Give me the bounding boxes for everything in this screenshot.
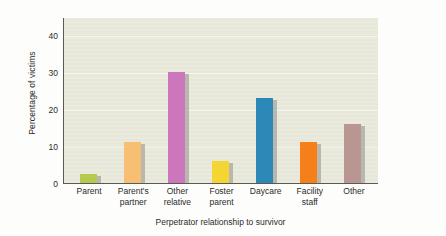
x-axis-tick-labels: ParentParent'spartnerOtherrelativeFoster… — [63, 186, 378, 207]
bar-slot — [244, 18, 288, 183]
x-tick-line-1: Parent's — [118, 186, 149, 196]
bar-slot — [68, 18, 112, 183]
bar-body — [80, 174, 97, 183]
bar-other[interactable] — [344, 124, 365, 183]
x-tick-line-1: Daycare — [250, 186, 282, 196]
x-tick-line-2: partner — [111, 197, 155, 208]
y-axis-tick-label: 0 — [32, 179, 58, 189]
x-axis-tick-label: Daycare — [244, 186, 288, 207]
bar-body — [344, 124, 361, 183]
bar-parent-s-partner[interactable] — [124, 142, 145, 183]
x-axis-tick-label: Parent — [67, 186, 111, 207]
bar-slot — [156, 18, 200, 183]
x-axis-tick-label: Facilitystaff — [288, 186, 332, 207]
bar-parent[interactable] — [80, 174, 101, 183]
x-tick-line-1: Other — [167, 186, 188, 196]
bar-chart-figure: Percentage of victims 010203040 ParentPa… — [0, 0, 446, 236]
bar-facility-staff[interactable] — [300, 142, 321, 183]
bar-other-relative[interactable] — [168, 72, 189, 183]
bar-foster-parent[interactable] — [212, 161, 233, 183]
x-tick-line-2: staff — [288, 197, 332, 208]
bar-slot — [200, 18, 244, 183]
y-axis-tick-label: 40 — [32, 31, 58, 41]
bar-slot — [112, 18, 156, 183]
x-axis-tick-label: Other — [332, 186, 376, 207]
x-tick-line-1: Facility — [297, 186, 323, 196]
x-axis-tick-label: Otherrelative — [155, 186, 199, 207]
x-tick-line-2: parent — [199, 197, 243, 208]
y-axis-tick-label: 20 — [32, 105, 58, 115]
x-tick-line-2: relative — [155, 197, 199, 208]
bar-body — [256, 98, 273, 183]
y-axis-tick-label: 30 — [32, 68, 58, 78]
x-axis-tick-label: Parent'spartner — [111, 186, 155, 207]
x-tick-line-1: Parent — [77, 186, 102, 196]
x-axis-title: Perpetrator relationship to survivor — [63, 217, 378, 227]
bar-series — [64, 18, 378, 183]
bar-body — [212, 161, 229, 183]
y-axis-tick-labels: 010203040 — [32, 18, 58, 184]
bar-body — [300, 142, 317, 183]
bar-body — [124, 142, 141, 183]
plot-area — [63, 18, 378, 184]
x-tick-line-1: Other — [343, 186, 364, 196]
bar-body — [168, 72, 185, 183]
bar-slot — [332, 18, 376, 183]
bar-slot — [288, 18, 332, 183]
x-tick-line-1: Foster — [209, 186, 233, 196]
x-axis-tick-label: Fosterparent — [199, 186, 243, 207]
y-axis-tick-label: 10 — [32, 142, 58, 152]
bar-daycare[interactable] — [256, 98, 277, 183]
